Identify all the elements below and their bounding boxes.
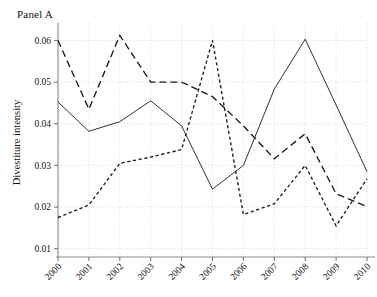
y-tick-label-0.03: 0.03 bbox=[34, 161, 51, 171]
x-tick-label-2003: 2003 bbox=[136, 261, 157, 282]
x-tick-label-2009: 2009 bbox=[321, 261, 342, 282]
y-tick-label-0.05: 0.05 bbox=[34, 77, 51, 87]
x-tick-label-2001: 2001 bbox=[74, 261, 95, 282]
axis-titles-layer: Divestiture intensity bbox=[11, 99, 22, 185]
x-tick-label-2004: 2004 bbox=[167, 261, 188, 282]
x-tick-label-2002: 2002 bbox=[105, 261, 126, 282]
y-tick-label-0.02: 0.02 bbox=[34, 202, 51, 212]
x-tick-label-2000: 2000 bbox=[43, 261, 64, 282]
grid-layer bbox=[58, 23, 367, 255]
chart-figure: Panel A 0.010.020.030.040.050.0620002001… bbox=[0, 0, 377, 297]
x-tick-label-2008: 2008 bbox=[290, 261, 311, 282]
x-tick-label-2007: 2007 bbox=[259, 261, 280, 282]
x-tick-label-2005: 2005 bbox=[197, 261, 218, 282]
x-tick-label-2006: 2006 bbox=[228, 261, 249, 282]
y-tick-label-0.01: 0.01 bbox=[34, 244, 51, 254]
y-axis-title: Divestiture intensity bbox=[11, 99, 22, 185]
axes-layer bbox=[54, 23, 375, 261]
line-chart: 0.010.020.030.040.050.062000200120022003… bbox=[0, 0, 377, 297]
x-tick-label-2010: 2010 bbox=[352, 261, 373, 282]
series-solid-series bbox=[58, 39, 367, 189]
y-tick-label-0.04: 0.04 bbox=[34, 119, 51, 129]
y-tick-label-0.06: 0.06 bbox=[34, 36, 51, 46]
series-long-dashed-series bbox=[58, 35, 367, 206]
